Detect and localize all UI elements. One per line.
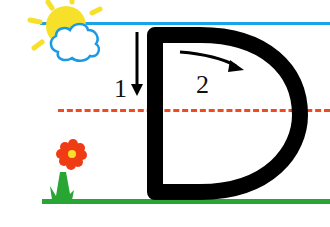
letter-d-stroke <box>155 35 300 192</box>
step-number-1: 1 <box>114 76 127 102</box>
step-number-2: 2 <box>196 72 209 98</box>
flower-icon <box>50 139 87 200</box>
illustration-layer <box>0 0 330 227</box>
arrow-down-icon <box>131 32 143 96</box>
cloud-icon <box>51 24 99 61</box>
arrow-curve-right-icon <box>180 52 244 72</box>
